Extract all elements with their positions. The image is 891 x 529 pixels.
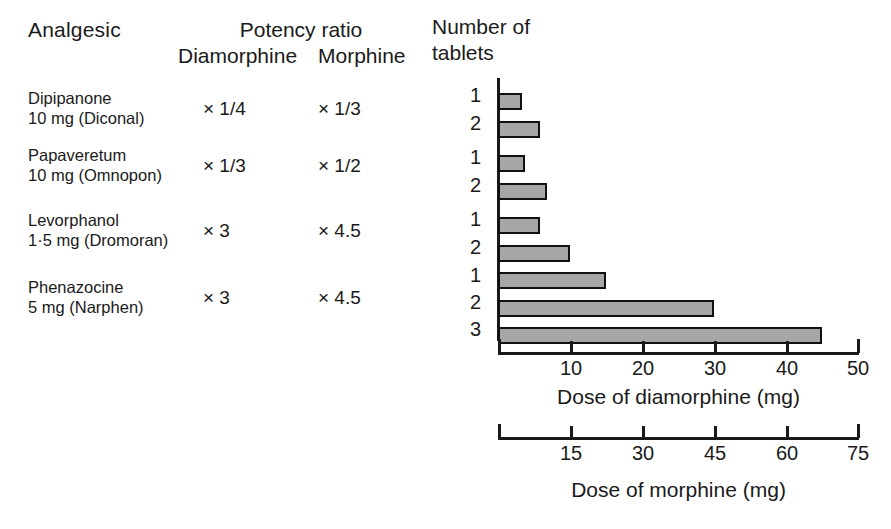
y-tick-label: 1 xyxy=(455,208,481,231)
bar xyxy=(498,121,540,138)
bar xyxy=(498,300,714,317)
x-tick-label-diamorphine: 30 xyxy=(693,357,737,380)
x-axis-diamorphine-tick-end xyxy=(857,339,860,353)
bar xyxy=(498,272,606,289)
figure-analgesic-potency: Analgesic Potency ratio Diamorphine Morp… xyxy=(0,0,891,529)
y-tick-label: 1 xyxy=(455,84,481,107)
x-tick-label-morphine: 30 xyxy=(621,442,665,465)
x-tick-label-morphine: 15 xyxy=(549,442,593,465)
chart-axis-title-line2: tablets xyxy=(432,40,530,66)
x-tick-label-diamorphine: 40 xyxy=(765,357,809,380)
x-axis-morphine-tick xyxy=(642,426,645,438)
x-axis-morphine-tick-end xyxy=(857,424,860,438)
x-tick-label-diamorphine: 20 xyxy=(621,357,665,380)
x-axis-diamorphine-tick xyxy=(642,341,645,353)
x-axis-morphine-line xyxy=(498,437,859,440)
x-tick-label-morphine: 60 xyxy=(765,442,809,465)
y-tick-label: 2 xyxy=(455,291,481,314)
x-axis-diamorphine-line xyxy=(498,352,859,355)
x-axis-diamorphine-tick xyxy=(786,341,789,353)
y-tick-label: 2 xyxy=(455,112,481,135)
x-axis-label-diamorphine: Dose of diamorphine (mg) xyxy=(498,385,859,409)
bar xyxy=(498,93,522,110)
bar-chart: Number of tablets 1 2 1 2 1 2 1 2 3 10 2 xyxy=(0,0,891,529)
x-axis-morphine-tick xyxy=(786,426,789,438)
x-axis-morphine-tick xyxy=(570,426,573,438)
x-axis-label-morphine: Dose of morphine (mg) xyxy=(498,478,859,502)
x-tick-label-diamorphine: 50 xyxy=(836,357,880,380)
x-axis-morphine-tick-start xyxy=(498,424,501,438)
y-tick-label: 1 xyxy=(455,264,481,287)
bar xyxy=(498,245,570,262)
x-axis-diamorphine-tick xyxy=(570,341,573,353)
x-tick-label-diamorphine: 10 xyxy=(549,357,593,380)
bar xyxy=(498,183,547,200)
x-axis-morphine-tick xyxy=(714,426,717,438)
bar xyxy=(498,217,540,234)
bar xyxy=(498,155,525,172)
x-tick-label-morphine: 45 xyxy=(693,442,737,465)
chart-axis-title-tablets: Number of tablets xyxy=(432,14,530,66)
x-axis-diamorphine-tick xyxy=(714,341,717,353)
y-tick-label: 3 xyxy=(455,318,481,341)
y-tick-label: 1 xyxy=(455,146,481,169)
x-axis-diamorphine-tick-start xyxy=(498,339,501,353)
bar xyxy=(498,327,822,344)
chart-axis-title-line1: Number of xyxy=(432,14,530,40)
y-tick-label: 2 xyxy=(455,236,481,259)
x-tick-label-morphine: 75 xyxy=(836,442,880,465)
y-tick-label: 2 xyxy=(455,174,481,197)
